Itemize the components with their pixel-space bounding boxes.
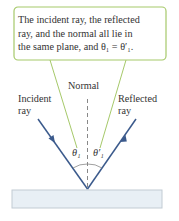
- incident-label-line2: ray: [18, 105, 31, 117]
- reflecting-surface: [12, 190, 162, 208]
- callout-pointer-left: [50, 60, 77, 148]
- theta1-prime-arc: [88, 164, 103, 168]
- theta1-prime-label: θ′₁: [93, 147, 104, 159]
- theta1-label: θ₁: [72, 147, 81, 159]
- callout-line-2: ray, and the normal all lie in: [18, 27, 164, 41]
- callout-line-1: The incident ray, the reflected: [18, 13, 164, 27]
- callout-text: The incident ray, the reflected ray, and…: [18, 13, 164, 54]
- theta1-arc: [73, 164, 88, 168]
- callout-line-3: the same plane, and θ₁ = θ′₁.: [18, 40, 164, 54]
- incident-label-line1: Incident: [18, 93, 51, 105]
- reflected-label-line2: ray: [118, 105, 131, 117]
- normal-label: Normal: [68, 80, 99, 92]
- reflected-label-line1: Reflected: [118, 93, 157, 105]
